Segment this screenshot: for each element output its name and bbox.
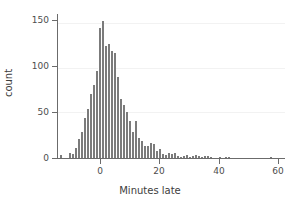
y-tick-label-0: 0 [43, 154, 49, 163]
y-tick-mark-100 [52, 66, 57, 67]
plot-area [57, 15, 285, 158]
histogram-figure: 0 50 100 150 0 20 40 60 Minutes late cou… [0, 0, 300, 209]
y-tick-mark-0 [52, 158, 57, 159]
x-tick-mark-60 [278, 159, 279, 164]
x-axis-label: Minutes late [0, 186, 300, 196]
y-tick-label-100: 100 [32, 62, 49, 71]
x-axis-line [57, 158, 285, 159]
x-tick-mark-0 [100, 159, 101, 164]
y-axis-line [57, 14, 58, 159]
x-tick-label-40: 40 [213, 167, 224, 176]
y-tick-label-50: 50 [38, 108, 49, 117]
x-tick-label-20: 20 [153, 167, 164, 176]
y-tick-mark-150 [52, 20, 57, 21]
x-tick-label-0: 0 [97, 167, 103, 176]
x-tick-label-60: 60 [272, 167, 283, 176]
x-tick-mark-20 [159, 159, 160, 164]
y-tick-mark-50 [52, 112, 57, 113]
histogram-bars [57, 15, 285, 158]
y-tick-label-150: 150 [32, 16, 49, 25]
x-tick-mark-40 [219, 159, 220, 164]
y-axis-label: count [4, 53, 14, 113]
